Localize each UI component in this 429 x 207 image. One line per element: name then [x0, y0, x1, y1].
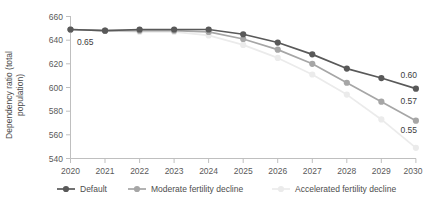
data-point	[171, 26, 177, 32]
data-point	[413, 145, 419, 151]
x-tick-2027: 2027	[303, 166, 322, 176]
data-point	[275, 39, 281, 45]
annotation-default-end: 0.60	[400, 70, 417, 80]
x-tick-2023: 2023	[165, 166, 184, 176]
legend-label: Moderate fertility decline	[151, 184, 243, 194]
x-tick-2028: 2028	[337, 166, 356, 176]
data-point	[275, 55, 281, 61]
data-point	[67, 26, 73, 32]
y-axis-title-line2: population)	[15, 74, 25, 116]
data-point	[413, 86, 419, 92]
data-point	[344, 65, 350, 71]
data-point	[309, 61, 315, 67]
data-point	[206, 26, 212, 32]
annotation-accelerated-end: 0.55	[400, 125, 417, 135]
x-tick-2025: 2025	[234, 166, 253, 176]
data-point	[378, 116, 384, 122]
y-tick-540: 540	[49, 154, 63, 164]
legend-swatch-marker	[278, 186, 284, 192]
dependency-ratio-line-chart: Dependency ratio (total population) 660 …	[0, 0, 429, 207]
x-tick-2020: 2020	[61, 166, 80, 176]
chart-container: Dependency ratio (total population) 660 …	[0, 0, 429, 207]
data-point	[378, 99, 384, 105]
chart-legend: DefaultModerate fertility declineAcceler…	[57, 184, 396, 194]
data-point	[309, 51, 315, 57]
x-axis	[71, 159, 417, 164]
series-accelerated-fertility-decline	[67, 26, 419, 151]
data-point	[309, 71, 315, 77]
series-layer	[67, 26, 419, 151]
y-tick-660: 660	[49, 12, 63, 22]
y-axis-title-line1: Dependency ratio (total	[4, 51, 14, 139]
x-tick-2022: 2022	[130, 166, 149, 176]
legend-label: Default	[80, 184, 108, 194]
legend-swatch-marker	[134, 186, 140, 192]
legend-item-moderate-fertility-decline[interactable]: Moderate fertility decline	[128, 184, 243, 194]
data-point	[102, 28, 108, 34]
data-point	[240, 31, 246, 37]
data-point	[378, 75, 384, 81]
data-point	[344, 80, 350, 86]
series-default	[67, 26, 419, 91]
y-axis	[66, 16, 71, 159]
x-tick-2030: 2030	[404, 166, 423, 176]
legend-label: Accelerated fertility decline	[295, 184, 396, 194]
y-tick-620: 620	[49, 59, 63, 69]
y-tick-640: 640	[49, 35, 63, 45]
annotation-moderate-end: 0.57	[400, 96, 417, 106]
legend-swatch-marker	[63, 186, 69, 192]
data-point	[240, 42, 246, 48]
legend-item-accelerated-fertility-decline[interactable]: Accelerated fertility decline	[272, 184, 396, 194]
y-axis-tick-labels: 660 640 620 600 580 560 540	[49, 12, 63, 164]
x-tick-2024: 2024	[199, 166, 218, 176]
x-tick-2026: 2026	[268, 166, 287, 176]
y-tick-580: 580	[49, 106, 63, 116]
y-tick-600: 600	[49, 83, 63, 93]
annotation-start-value: 0.65	[77, 37, 94, 47]
data-point	[344, 92, 350, 98]
x-axis-tick-labels: 2020 2021 2022 2023 2024 2025 2026 2027 …	[61, 166, 423, 176]
x-tick-2021: 2021	[96, 166, 115, 176]
x-tick-2029: 2029	[372, 166, 391, 176]
y-tick-560: 560	[49, 130, 63, 140]
data-point	[275, 47, 281, 53]
data-point	[136, 26, 142, 32]
legend-item-default[interactable]: Default	[57, 184, 108, 194]
data-point	[413, 118, 419, 124]
